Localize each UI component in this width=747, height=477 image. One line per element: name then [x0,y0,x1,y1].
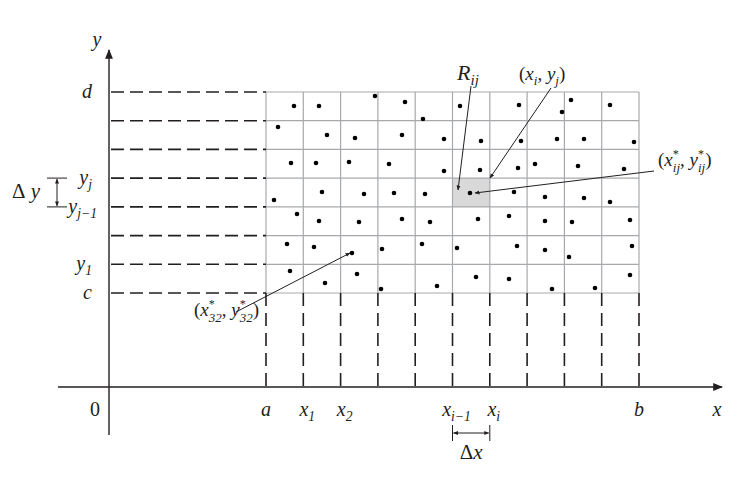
sample-point [387,162,392,167]
sample-point [428,220,433,225]
x-star-32-label: (x*32, y*32) [194,297,259,325]
sample-point [476,217,481,222]
sample-point [423,192,428,197]
sample-point [632,140,637,145]
sample-point [435,284,440,289]
sample-point [317,219,322,224]
sample-point [628,273,633,278]
sample-point [373,94,378,99]
sample-point [543,195,548,200]
sample-point [455,246,460,251]
sample-point [312,245,317,250]
sample-point [576,164,581,169]
sample-point [516,166,521,171]
sample-point [515,244,520,249]
sample-point [507,214,512,219]
sample-point [288,269,293,274]
sample-point [512,190,517,195]
sample-point [550,287,555,292]
sample-point [582,137,587,142]
sample-point [347,160,352,165]
sample-point [608,103,613,108]
sample-point [507,277,512,282]
x-tick-label: xi−1 [441,398,471,424]
sample-point [608,200,613,205]
sample-point [517,103,522,108]
sample-point [468,191,473,196]
x-tick-label: a [261,398,271,420]
sample-point [276,125,281,130]
riemann-double-integral-diagram: 0xyax1x2xi−1xibdyjyj−1y1cΔxΔ yRij(xi, yj… [0,0,747,477]
sample-point [519,139,524,144]
sample-point [403,100,408,105]
sample-point [442,169,447,174]
sample-point [362,192,367,197]
sample-point [478,168,483,173]
Rij-label: Rij [456,60,479,88]
sample-point [555,137,560,142]
sample-point [567,255,572,260]
sample-point [380,247,385,252]
y-tick-label: yj [77,166,92,192]
axis-and-annotation-labels: 0xyax1x2xi−1xibdyjyj−1y1cΔxΔ yRij(xi, yj… [12,28,722,464]
sample-point [314,161,319,166]
sample-point [289,161,294,166]
sample-point [474,275,479,280]
y-tick-label: yj−1 [66,195,97,221]
sample-point [569,98,574,103]
sample-point [292,104,297,109]
coordinate-axes [58,50,722,435]
sample-point [630,244,635,249]
sample-point [320,190,325,195]
y-tick-label: y1 [74,252,92,278]
delta-x-label: Δx [460,440,484,464]
sample-point [400,133,405,138]
sample-point [533,162,538,167]
y-tick-label: c [83,281,92,303]
sample-point [560,110,565,115]
x-star-ij-label: (x*ij, y*ij) [658,147,712,175]
sample-point [353,136,358,141]
x-tick-label: x2 [336,398,353,424]
sample-point [272,198,277,203]
sample-point [379,287,384,292]
x-axis-label: x [712,398,722,420]
y-tick-label: d [82,80,93,102]
sample-point [543,219,548,224]
sample-point [479,139,484,144]
sample-point [355,272,360,277]
sample-point [317,104,322,109]
sample-point [357,220,362,225]
y-axis-label: y [91,28,102,51]
sample-point [285,242,290,247]
sample-point [400,217,405,222]
sample-point [570,220,575,225]
delta-y-label: Δ y [12,179,41,203]
x-tick-label: x1 [298,398,315,424]
R-ij-label-pointer [458,86,471,190]
xi-yj-label-pointer [490,88,551,178]
sample-point [350,251,355,256]
sample-point [442,137,447,142]
sample-point [420,242,425,247]
sample-point [421,117,426,122]
sample-point [622,167,627,172]
sample-point [582,196,587,201]
sample-point [392,191,397,196]
xi-yj-label: (xi, yj) [519,63,565,88]
sample-point [323,281,328,286]
sample-point [593,286,598,291]
sample-point [325,133,330,138]
sample-point [295,212,300,217]
sample-point [628,218,633,223]
sample-point [458,104,463,109]
origin-label: 0 [90,398,100,420]
projection-dashed-lines [111,92,639,387]
sample-point [543,248,548,253]
x-tick-label: b [634,398,644,420]
x-tick-label: xi [486,398,500,424]
